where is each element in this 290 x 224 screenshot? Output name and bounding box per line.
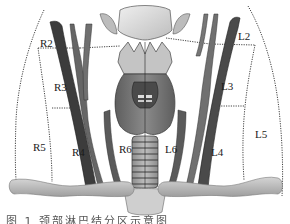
region-label-r3: R3 <box>54 82 67 93</box>
region-label-r2: R2 <box>40 38 53 49</box>
region-boundaries-left <box>166 6 283 196</box>
region-label-r6: R6 <box>119 144 132 155</box>
region-boundaries-right <box>15 10 120 190</box>
region-label-l2: L2 <box>238 31 250 42</box>
region-label-l3: L3 <box>221 81 233 92</box>
region-label-l6: L6 <box>165 144 177 155</box>
figure-caption-text: 图 1 颈部淋巴结分区示意图 <box>6 216 286 224</box>
region-label-l5: L5 <box>255 129 267 140</box>
region-label-l4: L4 <box>211 147 223 158</box>
hyoid-structure <box>100 6 190 41</box>
figure-caption: 图 1 颈部淋巴结分区示意图 <box>6 215 286 224</box>
region-label-r5: R5 <box>33 142 46 153</box>
neck-lymph-node-diagram: R2 R3 R4 R5 R6 L2 L3 L4 L5 L6 <box>0 0 290 224</box>
region-label-r4: R4 <box>72 147 85 158</box>
